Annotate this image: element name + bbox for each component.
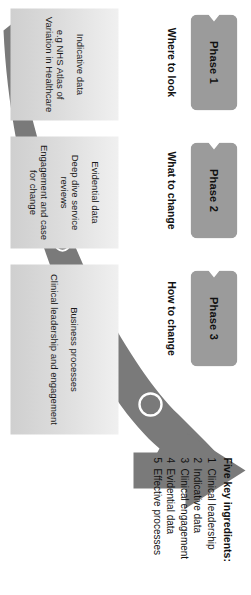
ingredient-item: 4 Evidential data [163, 457, 177, 585]
phase-caption-1: Where to look [163, 14, 179, 110]
phase-box-3[interactable]: Phase 3 [190, 270, 237, 366]
ingredient-item: 1 Clinical leadership [204, 457, 218, 585]
phase-caption-3: How to change [163, 270, 179, 366]
ingredient-label: Indicative data [190, 468, 204, 585]
ingredient-number: 4 [163, 457, 177, 468]
content-panel-phase-1: Indicative data e.g NHS Atlas of Variati… [10, 8, 118, 120]
panel-2-line-2: Deep dive service reviews [59, 140, 81, 244]
ingredient-label: Clinical engagement [177, 468, 191, 585]
ingredient-number: 3 [177, 457, 191, 468]
ingredient-number: 2 [190, 457, 204, 468]
key-ingredients-block: Five key ingredients: 1 Clinical leaders… [150, 457, 234, 585]
ingredient-label: Effective processes [150, 468, 164, 585]
phase-label-3: Phase 3 [208, 297, 220, 340]
content-panel-phase-3: Business processes Clinical leadership a… [10, 264, 118, 434]
phase-box-1[interactable]: Phase 1 [190, 14, 237, 110]
panel-1-line-2: e.g NHS Atlas of Variation in Healthcare [43, 12, 65, 116]
ingredient-item: 5 Effective processes [150, 457, 164, 585]
phase-3-milestone-marker [139, 393, 161, 415]
content-panel-phase-2: Evidential data Deep dive service review… [10, 136, 118, 248]
panel-1-line-1: Indicative data [74, 33, 85, 94]
key-ingredients-title: Five key ingredients: [221, 457, 233, 585]
ingredient-item: 3 Clinical engagement [177, 457, 191, 585]
ingredient-label: Clinical leadership [204, 468, 218, 585]
ingredient-item: 2 Indicative data [190, 457, 204, 585]
panel-2-line-3: Engagement and case for change [28, 140, 50, 244]
phase-box-2[interactable]: Phase 2 [190, 142, 237, 238]
phase-label-2: Phase 2 [208, 169, 220, 212]
diagram-canvas: Phase 1 Phase 2 Phase 3 Where to look Wh… [0, 0, 251, 595]
ingredient-number: 1 [204, 457, 218, 468]
panel-3-line-1: Business processes [69, 307, 80, 391]
panel-3-line-2: Clinical leadership and engagement [49, 273, 60, 424]
ingredient-label: Evidential data [163, 468, 177, 585]
panel-2-line-1: Evidential data [90, 161, 101, 223]
ingredient-number: 5 [150, 457, 164, 468]
phase-label-1: Phase 1 [208, 41, 220, 84]
phase-caption-2: What to change [163, 142, 179, 238]
